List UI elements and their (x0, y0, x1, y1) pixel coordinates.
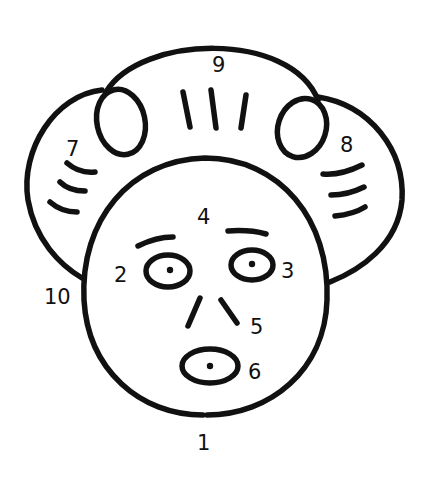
label-7: 7 (66, 137, 79, 161)
left-eyebrow (138, 237, 173, 246)
right-hair-stroke-2 (331, 187, 364, 195)
right-hair-stroke-3 (335, 207, 365, 216)
right-pupil (249, 261, 255, 267)
label-5: 5 (250, 315, 263, 339)
label-8: 8 (340, 133, 353, 157)
face-diagram-svg: 1 2 3 4 5 6 7 8 9 10 (0, 0, 426, 485)
top-hair-stroke-2 (211, 90, 216, 128)
mouth-dot (207, 363, 213, 369)
label-4: 4 (197, 205, 210, 229)
top-hair-stroke-3 (241, 95, 246, 128)
label-1: 1 (197, 431, 210, 455)
left-hair-loop (91, 85, 152, 160)
left-hair-stroke-2 (60, 182, 85, 191)
left-hair-stroke-1 (67, 163, 95, 172)
left-pupil (167, 267, 173, 273)
nose-right-stroke (221, 300, 237, 323)
label-9: 9 (212, 53, 225, 77)
label-2: 2 (114, 263, 127, 287)
right-hair-loop (270, 92, 334, 164)
label-6: 6 (248, 360, 261, 384)
face-diagram: 1 2 3 4 5 6 7 8 9 10 (0, 0, 426, 485)
top-hair-stroke-1 (183, 92, 190, 127)
label-10: 10 (44, 285, 71, 309)
nose-left-stroke (188, 298, 200, 326)
left-hair-stroke-3 (50, 202, 77, 212)
right-hair-stroke-1 (323, 165, 362, 174)
right-eyebrow (228, 231, 266, 234)
label-3: 3 (281, 259, 294, 283)
